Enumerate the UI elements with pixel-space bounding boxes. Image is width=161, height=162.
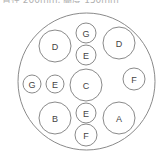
circle-label: A (116, 114, 122, 124)
circle-g: G (76, 23, 96, 43)
circle-g: G (23, 75, 41, 93)
circle-e: E (46, 75, 64, 93)
circle-c: C (70, 69, 102, 101)
circle-layout-diagram: DGEDGECFBEAF (0, 0, 161, 162)
circle-label: G (28, 80, 35, 90)
circle-d: D (39, 30, 71, 62)
circle-e: E (76, 103, 96, 123)
inner-circles: DGEDGECFBEAF (23, 23, 145, 146)
circle-label: E (83, 109, 89, 119)
circle-e: E (76, 45, 96, 65)
circle-f: F (75, 124, 97, 146)
circle-label: B (52, 114, 58, 124)
circle-a: A (103, 102, 135, 134)
circle-label: D (52, 42, 59, 52)
circle-d: D (103, 27, 135, 59)
circle-label: C (83, 81, 90, 91)
circle-label: E (83, 51, 89, 61)
circle-label: F (83, 131, 89, 141)
circle-label: F (131, 75, 137, 85)
circle-label: D (116, 39, 123, 49)
circle-f: F (123, 68, 145, 90)
circle-label: E (52, 80, 58, 90)
circle-label: G (82, 29, 89, 39)
circle-b: B (39, 102, 71, 134)
